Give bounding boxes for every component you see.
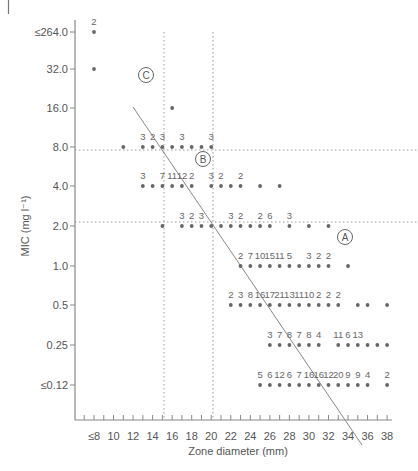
point-count-label: 2 bbox=[384, 369, 389, 380]
data-point bbox=[317, 383, 321, 387]
data-point bbox=[297, 264, 301, 268]
x-tick-label: 12 bbox=[127, 430, 139, 442]
point-count-label: 3 bbox=[140, 131, 145, 142]
point-count-label: 3 bbox=[199, 210, 204, 221]
point-count-label: 20 bbox=[333, 369, 344, 380]
data-point bbox=[248, 264, 252, 268]
data-point bbox=[121, 145, 125, 149]
data-point bbox=[239, 224, 243, 228]
data-point bbox=[327, 224, 331, 228]
point-count-label: 11 bbox=[167, 170, 177, 181]
data-point bbox=[307, 224, 311, 228]
data-point bbox=[385, 383, 389, 387]
point-count-label: 2 bbox=[316, 289, 321, 300]
x-tick-label: 34 bbox=[342, 430, 354, 442]
data-point bbox=[307, 303, 311, 307]
data-point bbox=[375, 343, 379, 347]
data-point bbox=[278, 343, 282, 347]
data-point bbox=[268, 343, 272, 347]
point-count-label: 3 bbox=[267, 329, 272, 340]
point-count-label: 3 bbox=[209, 131, 214, 142]
point-count-label: 2 bbox=[336, 289, 341, 300]
point-count-label: 2 bbox=[316, 250, 321, 261]
data-point bbox=[288, 303, 292, 307]
y-tick-label: 32.0 bbox=[47, 63, 68, 75]
point-count-label: 7 bbox=[297, 329, 302, 340]
data-point bbox=[190, 224, 194, 228]
data-point bbox=[209, 184, 213, 188]
data-point bbox=[278, 264, 282, 268]
x-tick-label: 14 bbox=[146, 430, 158, 442]
data-point bbox=[336, 383, 340, 387]
data-point bbox=[258, 184, 262, 188]
data-point bbox=[229, 224, 233, 228]
point-count-label: 2 bbox=[238, 210, 243, 221]
data-point bbox=[278, 303, 282, 307]
x-tick-label: 10 bbox=[107, 430, 119, 442]
point-count-label: 2 bbox=[238, 250, 243, 261]
data-point bbox=[327, 303, 331, 307]
region-label: C bbox=[142, 70, 149, 81]
point-count-label: 8 bbox=[306, 329, 311, 340]
data-point bbox=[170, 145, 174, 149]
data-point bbox=[229, 184, 233, 188]
data-point bbox=[356, 343, 360, 347]
data-point bbox=[219, 184, 223, 188]
data-point bbox=[180, 145, 184, 149]
x-tick-label: 28 bbox=[283, 430, 295, 442]
point-count-label: 7 bbox=[160, 170, 165, 181]
point-count-label: 2 bbox=[91, 16, 96, 27]
point-count-label: 5 bbox=[257, 369, 262, 380]
data-point bbox=[366, 343, 370, 347]
point-count-label: 13 bbox=[353, 329, 364, 340]
data-point bbox=[288, 343, 292, 347]
point-count-label: 15 bbox=[265, 250, 276, 261]
point-count-label: 6 bbox=[267, 210, 272, 221]
point-count-label: 7 bbox=[277, 329, 282, 340]
data-point bbox=[141, 184, 145, 188]
data-point bbox=[200, 224, 204, 228]
point-count-label: 7 bbox=[248, 250, 253, 261]
data-point bbox=[160, 145, 164, 149]
data-point bbox=[92, 67, 96, 71]
data-point bbox=[219, 224, 223, 228]
data-point bbox=[239, 303, 243, 307]
data-point bbox=[170, 184, 174, 188]
point-count-label: 6 bbox=[345, 329, 350, 340]
x-axis-title: Zone diameter (mm) bbox=[188, 445, 288, 457]
data-point bbox=[366, 383, 370, 387]
data-point bbox=[356, 303, 360, 307]
data-point bbox=[385, 303, 389, 307]
point-count-label: 4 bbox=[365, 369, 370, 380]
data-point bbox=[336, 343, 340, 347]
y-axis-title: MIC (mg l⁻¹) bbox=[19, 196, 31, 257]
region-label: B bbox=[200, 154, 207, 165]
point-count-label: 2 bbox=[218, 170, 223, 181]
point-count-label: 6 bbox=[287, 369, 292, 380]
point-count-label: 2 bbox=[189, 170, 194, 181]
point-count-label: 2 bbox=[238, 170, 243, 181]
data-point bbox=[317, 303, 321, 307]
x-tick-label: 16 bbox=[166, 430, 178, 442]
data-point bbox=[297, 343, 301, 347]
point-count-label: 2 bbox=[257, 210, 262, 221]
data-point bbox=[317, 343, 321, 347]
point-count-label: 11 bbox=[333, 329, 343, 340]
data-point bbox=[268, 303, 272, 307]
point-count-label: 3 bbox=[209, 170, 214, 181]
data-point bbox=[151, 145, 155, 149]
data-point bbox=[200, 145, 204, 149]
data-point bbox=[180, 184, 184, 188]
x-tick-label: 22 bbox=[225, 430, 237, 442]
data-point bbox=[258, 303, 262, 307]
data-point bbox=[268, 264, 272, 268]
point-count-label: 13 bbox=[284, 289, 295, 300]
y-tick-label: 1.0 bbox=[53, 260, 68, 272]
point-count-label: 12 bbox=[274, 369, 285, 380]
data-point bbox=[307, 343, 311, 347]
y-tick-label: 16.0 bbox=[47, 102, 68, 114]
x-tick-label: 38 bbox=[381, 430, 393, 442]
data-point bbox=[297, 383, 301, 387]
data-point bbox=[180, 224, 184, 228]
data-point bbox=[327, 264, 331, 268]
